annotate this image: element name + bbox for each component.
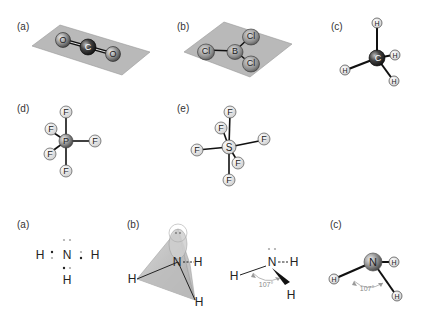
- nitrogen-symbol: N: [63, 248, 72, 262]
- atom-symbol: H: [391, 78, 396, 85]
- panel-co2: (a) O C O: [17, 21, 150, 75]
- wedge-bond: [272, 268, 290, 285]
- hydrogen-symbol: H: [290, 255, 299, 269]
- atom-symbol: H: [374, 20, 379, 27]
- atom-symbol: C: [375, 53, 382, 63]
- atom-symbol: Cl: [247, 58, 256, 68]
- panel-label: (a): [17, 21, 29, 32]
- nitrogen-symbol: N: [173, 255, 182, 269]
- atom-symbol: N: [369, 256, 377, 268]
- atom-symbol: F: [261, 134, 267, 144]
- panel-label: (c): [331, 21, 343, 32]
- atom-symbol: F: [47, 149, 53, 159]
- atom-symbol: F: [63, 166, 69, 176]
- hydrogen-symbol: H: [230, 269, 239, 283]
- atom-symbol: F: [63, 107, 69, 117]
- atom-symbol: F: [227, 107, 233, 117]
- nitrogen-symbol: N: [268, 255, 277, 269]
- angle-arc: [253, 273, 280, 281]
- panel-label: (e): [177, 103, 189, 114]
- panel-label: (a): [17, 219, 29, 230]
- panel-label: (b): [127, 219, 139, 230]
- atom-symbol: F: [226, 175, 232, 185]
- atom-symbol: F: [194, 145, 200, 155]
- atom-symbol: H: [391, 259, 396, 266]
- hydrogen-symbol: H: [195, 295, 204, 309]
- atom-symbol: P: [63, 136, 69, 146]
- atom-symbol: Cl: [202, 46, 211, 56]
- panel-nh3-wedge: N H H H 107°: [230, 248, 299, 302]
- bond-angle-label: 107°: [360, 285, 375, 292]
- atom-symbol: O: [109, 49, 116, 59]
- atom-symbol: F: [48, 124, 54, 134]
- panel-ch4: (c) H C H H H: [331, 18, 400, 86]
- atom-symbol: H: [331, 276, 336, 283]
- panel-pf5: (d) F F P F F F: [17, 103, 101, 177]
- panel-nh3-ballstick: (c) 107° N H H H: [329, 219, 402, 301]
- panel-label: (b): [177, 21, 189, 32]
- atom-symbol: F: [218, 123, 224, 133]
- atom-symbol: B: [232, 46, 238, 56]
- atom-symbol: H: [394, 293, 399, 300]
- hydrogen-symbol: H: [63, 273, 72, 287]
- hydrogen-symbol: H: [91, 248, 100, 262]
- panel-nh3-tetrahedron: (b) N H H H: [127, 219, 203, 309]
- bond-angle-label: 107°: [259, 281, 274, 288]
- hydrogen-symbol: H: [36, 248, 45, 262]
- atom-symbol: C: [85, 42, 92, 52]
- atom-symbol: H: [392, 52, 397, 59]
- hydrogen-symbol: H: [128, 272, 137, 286]
- panel-sf6: (e) F F S F F F F: [177, 103, 270, 186]
- atom-symbol: H: [342, 67, 347, 74]
- atom-symbol: Cl: [247, 31, 256, 41]
- atom-symbol: S: [226, 142, 233, 153]
- panel-bcl3: (b) Cl B Cl Cl: [177, 21, 292, 77]
- panel-label: (c): [330, 219, 342, 230]
- atom-symbol: F: [92, 136, 98, 146]
- molecular-geometry-diagram: (a) O C O (b) Cl B Cl Cl (c) H: [0, 0, 421, 320]
- panel-label: (d): [17, 103, 29, 114]
- atom-symbol: F: [235, 158, 241, 168]
- hydrogen-symbol: H: [194, 255, 203, 269]
- panel-nh3-lewis: (a) H N H H: [17, 219, 99, 287]
- atom-symbol: O: [59, 35, 66, 45]
- hydrogen-symbol: H: [287, 288, 296, 302]
